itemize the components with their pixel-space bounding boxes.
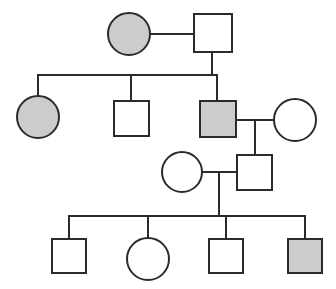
individual-III-1-female-unaffected (162, 152, 202, 192)
individual-I-2-male-unaffected (194, 14, 232, 52)
symbol-layer (17, 13, 322, 280)
individual-IV-1-male-unaffected (52, 239, 86, 273)
individual-II-1-female-affected (17, 96, 59, 138)
individual-III-2-male-unaffected (237, 155, 272, 190)
pedigree-chart (0, 0, 336, 289)
individual-II-4-female-unaffected (274, 99, 316, 141)
individual-IV-2-female-unaffected (127, 238, 169, 280)
individual-IV-4-male-affected (288, 239, 322, 273)
individual-IV-3-male-unaffected (209, 239, 243, 273)
individual-II-2-male-unaffected (114, 101, 149, 136)
individual-II-3-male-affected (200, 101, 236, 137)
individual-I-1-female-affected (108, 13, 150, 55)
pedigree-canvas (0, 0, 336, 289)
connector-layer (38, 34, 305, 239)
